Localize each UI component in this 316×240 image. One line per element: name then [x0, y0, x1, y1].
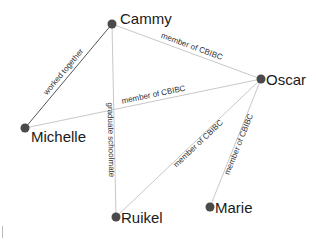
edge-label: member of CBIBC	[121, 84, 187, 106]
node-oscar[interactable]: Oscar	[257, 71, 307, 88]
network-graph: worked togethermember of CBIBCmember of …	[0, 0, 316, 240]
node-dot-icon[interactable]	[108, 20, 117, 29]
edge-cammy-oscar: member of CBIBC	[112, 24, 261, 79]
node-label: Michelle	[31, 128, 86, 145]
edge-cammy-ruikel: graduate schoolmate	[106, 24, 117, 217]
edge-label: member of CBIBC	[160, 31, 224, 62]
edge-label: member of CBIBC	[223, 112, 255, 176]
node-dot-icon[interactable]	[206, 203, 215, 212]
edge-line	[112, 24, 261, 79]
corner-tick-mark	[2, 226, 3, 238]
node-label: Cammy	[120, 10, 172, 27]
node-dot-icon[interactable]	[21, 124, 30, 133]
edge-oscar-marie: member of CBIBC	[210, 79, 261, 207]
node-dot-icon[interactable]	[257, 75, 266, 84]
node-dot-icon[interactable]	[112, 213, 121, 222]
edge-label: member of CBIBC	[172, 118, 225, 169]
edge-label: graduate schoolmate	[106, 102, 117, 177]
node-label: Marie	[215, 199, 253, 216]
edges-layer: worked togethermember of CBIBCmember of …	[25, 24, 261, 217]
node-ruikel[interactable]: Ruikel	[112, 209, 163, 226]
node-label: Ruikel	[121, 209, 163, 226]
node-label: Oscar	[266, 71, 306, 88]
edge-label: worked together	[41, 47, 86, 98]
